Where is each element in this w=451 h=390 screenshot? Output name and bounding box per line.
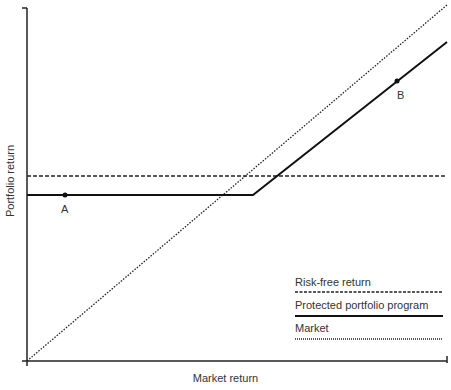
protected-portfolio-line bbox=[27, 42, 447, 195]
point-a-marker bbox=[63, 193, 68, 198]
point-b-marker bbox=[395, 79, 400, 84]
point-b-label: B bbox=[397, 89, 404, 101]
point-a-label: A bbox=[61, 203, 68, 215]
x-axis-label: Market return bbox=[0, 372, 451, 384]
chart-canvas bbox=[0, 0, 451, 390]
legend-market-label: Market bbox=[295, 322, 329, 334]
legend-risk-free-label: Risk-free return bbox=[295, 276, 371, 288]
legend-protected-label: Protected portfolio program bbox=[295, 299, 428, 311]
y-axis-label: Portfolio return bbox=[4, 141, 16, 221]
